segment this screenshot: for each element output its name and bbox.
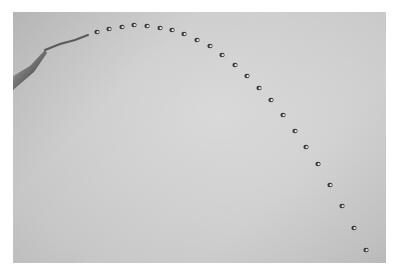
droplet [169,28,174,32]
droplet [207,44,212,48]
droplet [232,63,237,67]
droplet [363,248,368,252]
droplet [119,25,124,29]
droplet [106,27,111,31]
droplet [144,24,149,28]
droplets [94,23,368,252]
droplet [339,204,344,208]
droplet [280,113,285,117]
droplet [219,53,224,57]
droplet [351,226,356,230]
droplet-trajectory [0,0,399,272]
droplet [94,30,99,34]
droplet [292,129,297,133]
droplet [315,162,320,166]
droplet [256,86,261,90]
nozzle [13,50,47,90]
droplet [244,74,249,78]
droplet [157,26,162,30]
droplet [268,98,273,102]
droplet [327,183,332,187]
water-stream [45,35,88,50]
droplet [131,23,136,27]
droplet [303,145,308,149]
droplet [181,32,186,36]
droplet [194,38,199,42]
